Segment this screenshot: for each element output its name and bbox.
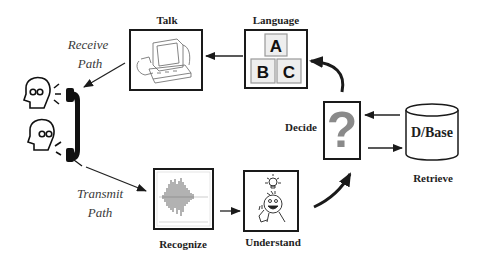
recognize-label: Recognize [159,238,207,250]
database-cylinder [0,0,482,267]
lightbulb-person-icon [245,172,297,230]
understand-label: Understand [245,236,301,248]
waveform-icon [155,170,212,228]
database-label: D/Base [411,125,453,141]
recognize-node [153,168,214,230]
retrieve-label: Retrieve [413,172,453,184]
understand-node [243,170,299,232]
